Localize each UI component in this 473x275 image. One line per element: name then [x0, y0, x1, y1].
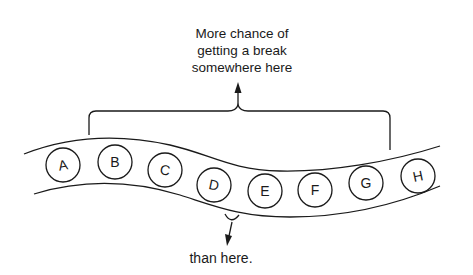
gene-label: A — [57, 156, 70, 173]
chromosome-bottom-edge — [34, 184, 440, 217]
gene-e: E — [248, 174, 282, 208]
gene-label: F — [311, 182, 320, 198]
gene-g: G — [349, 166, 383, 200]
bottom-label: than here. — [189, 250, 252, 266]
gene-c: C — [148, 153, 182, 187]
down-arrow-icon — [225, 222, 232, 246]
break-point-marker — [225, 214, 239, 220]
top-label-line-2: getting a break — [197, 43, 287, 58]
gene-b: B — [98, 145, 132, 179]
gene-label: E — [260, 183, 269, 199]
gene-f: F — [298, 173, 332, 207]
brace-bracket — [89, 105, 390, 150]
top-label-line-3: somewhere here — [192, 60, 293, 75]
top-label-line-1: More chance of — [195, 26, 288, 41]
gene-label: B — [110, 154, 119, 170]
chromosome-top-edge — [24, 138, 440, 171]
gene-a: A — [46, 148, 80, 182]
gene-d: D — [197, 168, 231, 202]
gene-label: C — [159, 161, 172, 179]
gene-label: H — [411, 167, 424, 185]
gene-label: G — [361, 175, 372, 191]
gene-h: H — [401, 159, 435, 193]
chromosome-break-diagram: More chance of getting a break somewhere… — [0, 0, 473, 275]
gene-label: D — [207, 176, 220, 194]
up-arrow-icon — [235, 82, 242, 106]
